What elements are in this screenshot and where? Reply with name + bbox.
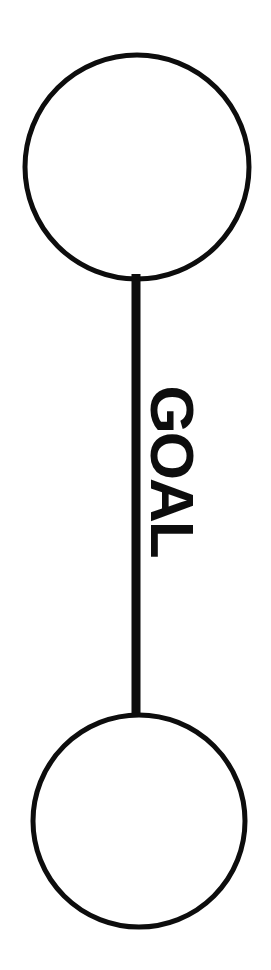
goal-edge-label-group: GOAL [138,385,207,556]
top-node-circle[interactable] [25,55,249,279]
bottom-node-circle[interactable] [33,715,245,927]
diagram-surface: GOAL [0,0,271,970]
diagram-canvas: GOAL [0,0,271,970]
goal-edge-label: GOAL [138,385,207,556]
